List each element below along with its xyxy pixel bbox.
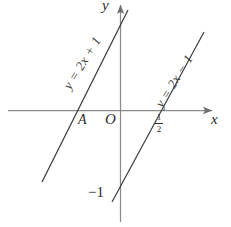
point-a-label: A	[78, 113, 87, 127]
line-y-equals-2x-plus-1	[42, 10, 128, 182]
x-intercept-one-half-label: 1 2	[155, 113, 163, 135]
x-axis-label: x	[211, 112, 218, 127]
fraction-denominator: 2	[157, 125, 162, 134]
y-axis-label: y	[102, 0, 109, 13]
origin-label: O	[105, 112, 116, 127]
y-intercept-minus-one-label: −1	[88, 185, 104, 200]
fraction-numerator: 1	[157, 113, 162, 122]
